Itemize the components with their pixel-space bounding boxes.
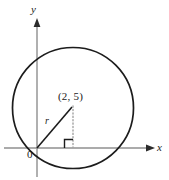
x-axis-arrow-icon: [146, 145, 155, 152]
x-axis-label: x: [157, 142, 162, 153]
origin-label: 0: [27, 149, 33, 160]
figure-container: y x 0 (2, 5) r: [0, 0, 169, 180]
radius-segment: [37, 107, 72, 148]
radius-label: r: [45, 116, 49, 126]
y-axis-arrow-icon: [34, 18, 41, 27]
coordinate-diagram-svg: [0, 0, 169, 180]
right-angle-marker-icon: [65, 140, 74, 149]
y-axis-label: y: [31, 4, 36, 15]
point-coordinate-label: (2, 5): [58, 91, 83, 102]
